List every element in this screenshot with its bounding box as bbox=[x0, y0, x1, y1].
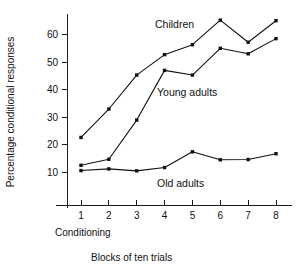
data-point bbox=[135, 118, 138, 121]
series-young-adults bbox=[79, 37, 277, 167]
data-point bbox=[107, 167, 110, 170]
data-point bbox=[246, 41, 249, 44]
data-point bbox=[79, 136, 82, 139]
data-point bbox=[274, 19, 277, 22]
series-children bbox=[79, 18, 277, 139]
x-tick-label: 7 bbox=[245, 210, 251, 221]
line-chart: 102030405060 12345678 Children Young adu… bbox=[0, 0, 306, 271]
chart-container: 102030405060 12345678 Children Young adu… bbox=[0, 0, 306, 271]
data-point bbox=[274, 152, 277, 155]
y-axis-title: Percentage conditional responses bbox=[5, 37, 16, 188]
data-point bbox=[79, 164, 82, 167]
data-point bbox=[246, 158, 249, 161]
y-tick-label: 50 bbox=[47, 57, 59, 68]
series-label-old-adults: Old adults bbox=[157, 177, 204, 189]
data-point bbox=[107, 158, 110, 161]
data-point bbox=[163, 69, 166, 72]
x-tick-label: 5 bbox=[190, 210, 196, 221]
series-line bbox=[81, 39, 276, 166]
x-tick-label: 6 bbox=[218, 210, 224, 221]
data-point bbox=[163, 53, 166, 56]
y-tick-label: 30 bbox=[47, 112, 59, 123]
x-tick-label: 8 bbox=[273, 210, 279, 221]
x-tick-label: 2 bbox=[106, 210, 112, 221]
data-point bbox=[246, 52, 249, 55]
y-axis-tick-labels: 102030405060 bbox=[47, 29, 59, 178]
data-point bbox=[274, 37, 277, 40]
x-tick-label: 3 bbox=[134, 210, 140, 221]
data-point bbox=[219, 47, 222, 50]
y-tick-label: 60 bbox=[47, 29, 59, 40]
data-point bbox=[79, 169, 82, 172]
y-tick-label: 10 bbox=[47, 167, 59, 178]
data-point bbox=[107, 107, 110, 110]
data-point bbox=[135, 169, 138, 172]
x-tick-label: 4 bbox=[162, 210, 168, 221]
x-tick-label: 1 bbox=[78, 210, 84, 221]
data-point bbox=[191, 150, 194, 153]
data-point bbox=[135, 73, 138, 76]
y-tick-label: 40 bbox=[47, 84, 59, 95]
y-tick-label: 20 bbox=[47, 139, 59, 150]
series-old-adults bbox=[79, 150, 277, 172]
data-point bbox=[191, 73, 194, 76]
data-point bbox=[163, 166, 166, 169]
series-line bbox=[81, 20, 276, 137]
data-point bbox=[219, 18, 222, 21]
series-label-young-adults: Young adults bbox=[157, 86, 217, 98]
data-point bbox=[219, 158, 222, 161]
x-axis-tick-labels: 12345678 bbox=[78, 210, 279, 221]
series-label-children: Children bbox=[155, 18, 194, 30]
conditioning-label: Conditioning bbox=[55, 227, 111, 238]
x-axis-title: Blocks of ten trials bbox=[91, 252, 172, 263]
data-point bbox=[191, 43, 194, 46]
